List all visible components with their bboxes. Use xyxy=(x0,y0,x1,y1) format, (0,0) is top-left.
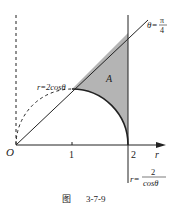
caption-number: 3-7-9 xyxy=(86,194,106,204)
caption-prefix: 图 xyxy=(62,194,71,204)
origin-label: O xyxy=(6,146,14,158)
ray-label-den: 4 xyxy=(160,26,164,35)
tick-label-2: 2 xyxy=(131,149,136,160)
line-label-num: 2 xyxy=(151,167,155,177)
region-label-a: A xyxy=(105,73,113,84)
line-label-lhs: r= xyxy=(130,174,140,184)
axis-label-r: r xyxy=(155,149,159,160)
line-label-den: cosθ xyxy=(143,178,159,188)
polar-region-diagram: O 1 2 r A r=2cosθ θ= π 4 r= 2 cosθ 图 3-7… xyxy=(0,0,174,206)
r-axis-arrow-icon xyxy=(156,142,166,148)
ray-label-lhs: θ= xyxy=(147,20,158,30)
tick-label-1: 1 xyxy=(69,149,74,160)
circle-label: r=2cosθ xyxy=(37,82,66,92)
ray-label-num: π xyxy=(160,16,164,25)
